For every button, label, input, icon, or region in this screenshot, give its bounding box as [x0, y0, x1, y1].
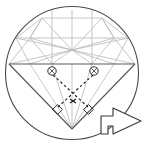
reflection-point-right [90, 67, 98, 75]
gem-ray-diagram-svg [0, 0, 144, 146]
reflection-point-left [48, 67, 56, 75]
diagram-canvas [0, 0, 144, 146]
